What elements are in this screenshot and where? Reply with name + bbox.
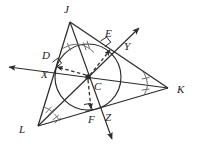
radius-c-to-e: [90, 50, 110, 75]
ray-label-y: Y: [124, 41, 130, 52]
incenter-point: [85, 74, 90, 79]
triangle-jkl: [38, 22, 168, 126]
tangent-label-f: F: [88, 114, 95, 125]
angle-arc-j-right: [80, 44, 95, 52]
center-label-c: C: [94, 81, 101, 92]
ray-label-z: Z: [105, 112, 111, 123]
geometry-figure: J K L D E F X Y Z C: [0, 0, 197, 149]
angle-mark-l: [44, 107, 61, 123]
angle-tick-k-lower: [142, 89, 150, 90]
vertex-label-j: J: [64, 4, 69, 15]
figure-canvas: [0, 0, 197, 149]
vertex-label-k: K: [177, 84, 184, 95]
ray-label-x: X: [41, 69, 48, 80]
side-jk: [70, 22, 168, 88]
tangent-label-e: E: [105, 28, 112, 39]
vertex-label-l: L: [19, 124, 25, 135]
tangent-label-d: D: [42, 50, 50, 61]
